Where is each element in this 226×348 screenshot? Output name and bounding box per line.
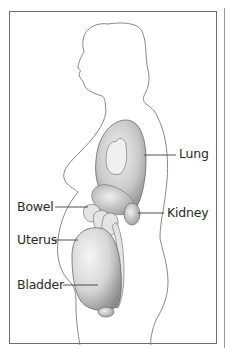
bladder-organ — [98, 307, 114, 317]
uterus-organ — [72, 228, 121, 311]
label-bladder: Bladder — [17, 279, 64, 292]
kidney-organ — [124, 203, 140, 225]
label-uterus: Uterus — [17, 234, 57, 247]
label-bowel: Bowel — [17, 201, 54, 214]
label-lung: Lung — [179, 148, 209, 161]
anatomy-illustration — [0, 0, 226, 348]
label-kidney: Kidney — [167, 207, 208, 220]
